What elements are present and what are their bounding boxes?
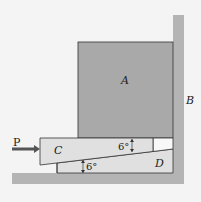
label-d: D xyxy=(154,157,164,170)
label-p: P xyxy=(13,136,21,149)
label-a: A xyxy=(120,74,129,87)
gap-region xyxy=(153,138,173,152)
block-a xyxy=(78,42,173,138)
floor xyxy=(12,173,184,184)
wall-b xyxy=(173,15,184,184)
diagram-canvas: A B C D P 6° 6° xyxy=(0,0,201,202)
label-angle-bottom: 6° xyxy=(86,161,97,172)
label-b: B xyxy=(185,94,194,107)
label-c: C xyxy=(54,144,63,157)
label-angle-top: 6° xyxy=(118,141,129,152)
